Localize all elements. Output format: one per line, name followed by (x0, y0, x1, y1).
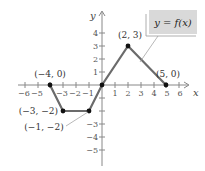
legend-leader-line (140, 36, 158, 62)
svg-text:5: 5 (164, 89, 169, 98)
svg-text:6: 6 (177, 89, 182, 98)
label-5-0: (5, 0) (156, 69, 180, 79)
svg-text:−3: −3 (86, 120, 98, 129)
axes (18, 11, 189, 166)
svg-text:3: 3 (138, 89, 143, 98)
y-axis-label: y (89, 10, 96, 21)
function-graph: −6 −5 −3 −2 −1 1 2 3 4 5 6 x 4 3 2 1 −3 … (0, 0, 205, 171)
label-2-3: (2, 3) (118, 30, 142, 40)
label-neg1-neg2: (−1, −2) (24, 122, 63, 132)
svg-text:3: 3 (93, 42, 98, 51)
leader-line-neg1-neg2 (66, 112, 88, 126)
function-line (50, 46, 166, 111)
point-origin (100, 83, 105, 88)
point-neg3-neg2 (61, 109, 66, 114)
svg-text:2: 2 (125, 89, 130, 98)
svg-text:1: 1 (112, 89, 117, 98)
point-5-0 (164, 83, 169, 88)
svg-text:4: 4 (93, 29, 98, 38)
svg-text:−6: −6 (18, 89, 30, 98)
label-neg4-0: (−4, 0) (34, 69, 66, 79)
function-legend-box: y = f(x) (140, 10, 197, 62)
svg-text:1: 1 (93, 68, 98, 77)
svg-text:−3: −3 (56, 89, 68, 98)
x-axis-label: x (193, 87, 199, 98)
svg-text:2: 2 (93, 55, 98, 64)
svg-text:−5: −5 (86, 146, 98, 155)
svg-text:−5: −5 (31, 89, 43, 98)
label-neg3-neg2: (−3, −2) (19, 106, 58, 116)
point-2-3 (126, 44, 131, 49)
svg-text:4: 4 (151, 89, 156, 98)
point-neg4-0 (48, 83, 53, 88)
function-label: y = f(x) (153, 17, 192, 28)
svg-text:−2: −2 (69, 89, 81, 98)
svg-text:−4: −4 (86, 133, 98, 142)
svg-text:−1: −1 (82, 89, 94, 98)
